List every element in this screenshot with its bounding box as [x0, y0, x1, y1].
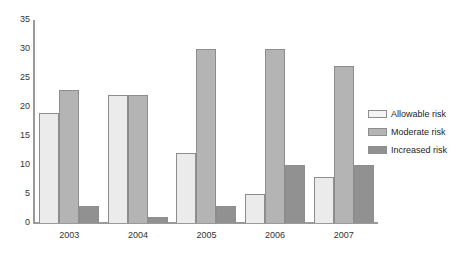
bar-2006-series-2 [285, 165, 305, 223]
legend-swatch-icon [368, 128, 387, 136]
legend-item-label: Allowable risk [391, 109, 446, 119]
bar-2003-series-1 [59, 90, 79, 223]
legend-item-label: Increased risk [391, 145, 447, 155]
legend-item-2: Increased risk [368, 142, 458, 158]
bar-2007-series-1 [334, 66, 354, 223]
bar-2005-series-1 [196, 49, 216, 223]
x-axis-tick-label: 2004 [104, 230, 173, 240]
y-axis-tick-labels: 35302520151050 [0, 0, 30, 255]
bar-2004-series-1 [128, 95, 148, 223]
bar-groups [35, 20, 378, 223]
bar-group-2005 [172, 20, 241, 223]
legend-swatch-icon [368, 110, 387, 118]
x-axis-tick-label: 2006 [241, 230, 310, 240]
bar-2007-series-0 [314, 177, 334, 223]
legend-item-1: Moderate risk [368, 124, 458, 140]
y-axis-tick-label: 0 [4, 218, 30, 227]
legend-item-label: Moderate risk [391, 127, 446, 137]
y-axis-tick-label: 20 [4, 102, 30, 111]
bar-2004-series-0 [108, 95, 128, 223]
bar-2003-series-2 [79, 206, 99, 223]
bar-chart: 35302520151050 20032004200520062007 Allo… [0, 0, 459, 255]
bar-2004-series-2 [148, 217, 168, 223]
y-axis-tick-label: 25 [4, 73, 30, 82]
bar-group-2003 [35, 20, 104, 223]
bar-2006-series-0 [245, 194, 265, 223]
bar-group-2004 [104, 20, 173, 223]
x-axis-tick-labels: 20032004200520062007 [35, 230, 378, 240]
y-axis-tick-label: 5 [4, 189, 30, 198]
y-axis-tick-label: 15 [4, 131, 30, 140]
bar-2005-series-0 [176, 153, 196, 223]
x-axis-tick-label: 2005 [172, 230, 241, 240]
bar-2003-series-0 [39, 113, 59, 223]
chart-legend: Allowable riskModerate riskIncreased ris… [368, 106, 458, 160]
legend-swatch-icon [368, 146, 387, 154]
bar-2007-series-2 [354, 165, 374, 223]
y-axis-tick-label: 35 [4, 15, 30, 24]
bar-2006-series-1 [265, 49, 285, 223]
bar-2005-series-2 [216, 206, 236, 223]
x-axis-tick-label: 2007 [309, 230, 378, 240]
y-axis-tick-label: 30 [4, 44, 30, 53]
y-axis-tick-label: 10 [4, 160, 30, 169]
bar-group-2006 [241, 20, 310, 223]
legend-item-0: Allowable risk [368, 106, 458, 122]
x-axis-tick-label: 2003 [35, 230, 104, 240]
